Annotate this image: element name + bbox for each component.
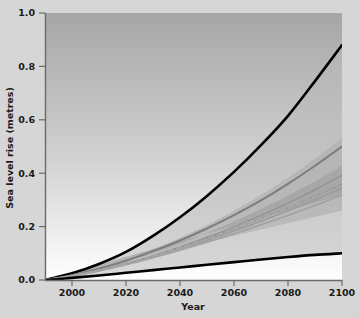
x-tick-label: 2000: [59, 287, 86, 298]
y-tick-label: 0.2: [18, 221, 35, 232]
y-tick-label: 1.0: [18, 7, 35, 18]
chart-figure: 0.00.20.40.60.81.0 200020202040206020802…: [0, 0, 359, 318]
x-axis-title: Year: [180, 301, 205, 312]
x-tick-label: 2020: [113, 287, 140, 298]
x-tick-label: 2060: [221, 287, 248, 298]
x-tick-label: 2040: [167, 287, 194, 298]
y-tick-label: 0.6: [18, 114, 35, 125]
sea-level-rise-chart: 0.00.20.40.60.81.0 200020202040206020802…: [0, 0, 359, 318]
y-tick-label: 0.4: [18, 168, 35, 179]
y-axis-title: Sea level rise (metres): [4, 87, 15, 209]
y-tick-label: 0.0: [18, 274, 35, 285]
x-tick-label: 2100: [329, 287, 356, 298]
y-tick-label: 0.8: [18, 61, 35, 72]
x-tick-label: 2080: [275, 287, 302, 298]
